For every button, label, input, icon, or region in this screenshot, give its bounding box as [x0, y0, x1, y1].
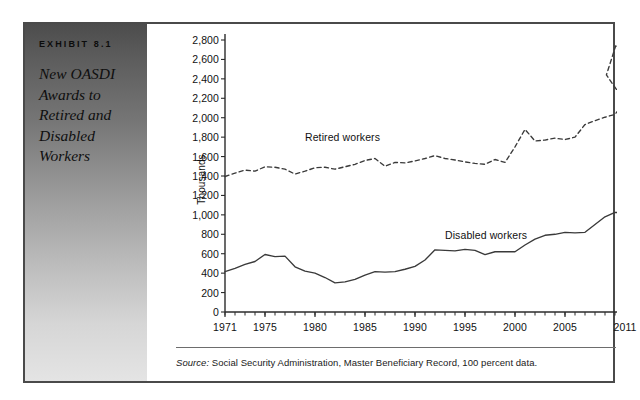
- source-text: Social Security Administration, Master B…: [209, 357, 537, 368]
- y-axis-tick-label: 1,200: [171, 189, 219, 201]
- x-axis-tick-label: 2011: [614, 321, 637, 333]
- y-axis-tick-label: 2,200: [171, 92, 219, 104]
- source-label: Source:: [176, 357, 209, 368]
- x-axis-tick-label: 2000: [503, 321, 527, 333]
- x-axis-tick-label: 1990: [403, 321, 427, 333]
- exhibit-number-label: EXHIBIT 8.1: [39, 39, 113, 49]
- series-line-disabled-workers: [225, 212, 617, 282]
- source-divider: [176, 347, 616, 348]
- y-axis-tick-label: 400: [171, 267, 219, 279]
- series-label-retired-workers: Retired workers: [305, 131, 380, 143]
- y-axis-tick-label: 1,800: [171, 131, 219, 143]
- chart-region: Thousands 2,8002,6002,4002,2002,0001,800…: [147, 24, 613, 381]
- exhibit-caption-panel: EXHIBIT 8.1 New OASDI Awards to Retired …: [25, 24, 147, 381]
- series-line-retired-workers: [225, 46, 617, 177]
- chart-plot: 2,8002,6002,4002,2002,0001,8001,6001,400…: [147, 24, 613, 381]
- x-axis-tick-label: 1995: [453, 321, 477, 333]
- y-axis-tick-label: 1,000: [171, 209, 219, 221]
- exhibit-frame: EXHIBIT 8.1 New OASDI Awards to Retired …: [23, 22, 615, 383]
- exhibit-title: New OASDI Awards to Retired and Disabled…: [39, 64, 143, 167]
- y-axis-tick-label: 2,000: [171, 112, 219, 124]
- y-axis-tick-label: 2,600: [171, 53, 219, 65]
- x-axis-tick-label: 1971: [213, 321, 237, 333]
- y-axis-tick-label: 600: [171, 248, 219, 260]
- series-label-disabled-workers: Disabled workers: [445, 229, 527, 241]
- y-axis-tick-label: 2,400: [171, 73, 219, 85]
- y-axis-tick-label: 200: [171, 287, 219, 299]
- y-axis-tick-label: 800: [171, 228, 219, 240]
- y-axis-tick-label: 1,600: [171, 151, 219, 163]
- y-axis-tick-label: 2,800: [171, 34, 219, 46]
- x-axis-tick-label: 1985: [353, 321, 377, 333]
- source-note: Source: Social Security Administration, …: [176, 357, 537, 368]
- x-axis-tick-label: 1975: [253, 321, 277, 333]
- x-axis-tick-label: 2005: [553, 321, 577, 333]
- x-axis-tick-label: 1980: [303, 321, 327, 333]
- y-axis-tick-label: 1,400: [171, 170, 219, 182]
- y-axis-tick-label: 0: [171, 306, 219, 318]
